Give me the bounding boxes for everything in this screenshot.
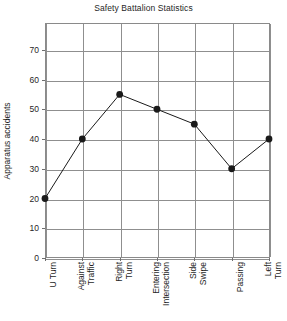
x-axis-tick-label-line: Intersection <box>162 262 172 320</box>
x-axis-tick-label-line: Turn <box>274 262 284 320</box>
x-axis-tick-label-line: Swipe <box>199 262 209 320</box>
x-axis-tick-labels: U TurnAgainstTrafficRightTurnEnteringInt… <box>0 258 287 321</box>
chart-figure: Safety Battalion Statistics Apparatus ac… <box>0 0 287 321</box>
data-point-marker <box>154 106 161 113</box>
x-axis-tick-label-line: U Turn <box>49 262 59 320</box>
x-axis-tick-label-line: Passing <box>236 262 246 320</box>
x-axis-tick-label-line: Turn <box>124 262 134 320</box>
x-axis-tick-mark <box>194 258 195 261</box>
x-axis-tick-label-line: Traffic <box>87 262 97 320</box>
x-axis-tick-mark <box>45 258 46 261</box>
data-point-marker <box>191 121 198 128</box>
data-point-marker <box>116 91 123 98</box>
x-axis-tick-label: EnteringIntersection <box>152 262 171 320</box>
x-axis-tick-label: AgainstTraffic <box>77 262 96 320</box>
data-point-marker <box>79 136 86 143</box>
x-axis-tick-label: Passing <box>236 262 246 320</box>
x-axis-tick-label: LeftTurn <box>264 262 283 320</box>
data-point-marker <box>228 165 235 172</box>
x-axis-tick-label: U Turn <box>49 262 59 320</box>
x-axis-tick-mark <box>232 258 233 261</box>
y-axis-title: Apparatus accidents <box>0 23 14 258</box>
x-axis-tick-mark <box>120 258 121 261</box>
x-axis-tick-mark <box>157 258 158 261</box>
y-axis-title-text: Apparatus accidents <box>2 102 12 179</box>
data-series-line <box>45 23 270 258</box>
x-axis-tick-label-line: Right <box>115 262 125 320</box>
x-axis-tick-mark <box>269 258 270 261</box>
x-axis-tick-mark <box>82 258 83 261</box>
x-axis-tick-label: RightTurn <box>115 262 134 320</box>
chart-title: Safety Battalion Statistics <box>0 3 287 13</box>
data-point-marker <box>266 136 273 143</box>
data-point-marker <box>42 195 49 202</box>
x-axis-tick-label: SideSwipe <box>189 262 208 320</box>
